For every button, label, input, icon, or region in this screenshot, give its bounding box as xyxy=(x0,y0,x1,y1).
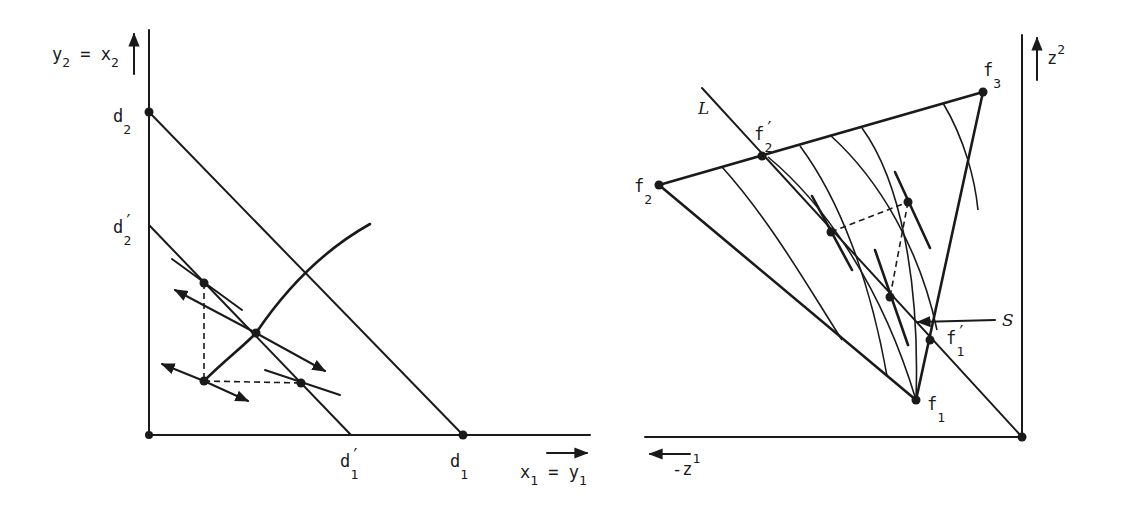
point-lower-right xyxy=(297,379,306,388)
left-panel: y2 = x2 x1 = y1 d2 d′2 d′1 d1 xyxy=(52,30,590,488)
origin-point xyxy=(145,431,153,439)
label-S: S xyxy=(1002,310,1014,330)
curve-6 xyxy=(830,135,937,330)
tangent-stroke-3 xyxy=(895,172,930,248)
z2-axis-label: z2 xyxy=(1047,42,1065,68)
curve-2 xyxy=(800,146,887,376)
point-inner-b xyxy=(904,198,913,207)
tangent-arrow-lower-right xyxy=(204,381,248,401)
point-f1 xyxy=(912,396,921,405)
label-d2-prime: d′2 xyxy=(113,211,134,248)
label-d1: d1 xyxy=(450,451,468,482)
point-equilibrium xyxy=(252,329,261,338)
right-panel: z2 -z1 L S f2 xyxy=(634,35,1065,479)
point-f1-prime xyxy=(926,336,935,345)
label-d1-prime: d′1 xyxy=(340,445,361,482)
y-axis-label: y2 = x2 xyxy=(52,44,119,70)
economics-diagram: y2 = x2 x1 = y1 d2 d′2 d′1 d1 xyxy=(0,0,1122,511)
z1-axis-label: -z1 xyxy=(672,451,700,479)
edge-f1-f3 xyxy=(916,92,983,400)
point-upper xyxy=(200,279,209,288)
point-f3 xyxy=(979,88,988,97)
edge-f2-f1 xyxy=(659,185,916,400)
point-f2 xyxy=(655,181,664,190)
label-f1-prime: f′1 xyxy=(946,322,967,359)
tangent-arrow-mid-right xyxy=(256,333,325,371)
label-d2: d2 xyxy=(113,106,131,137)
dashed-horizontal xyxy=(204,381,301,383)
contract-curve xyxy=(204,224,370,381)
x-axis-label: x1 = y1 xyxy=(520,462,587,488)
label-f3: f3 xyxy=(983,60,1001,91)
dashed-line-1 xyxy=(831,202,908,232)
point-inner-a xyxy=(827,228,836,237)
label-f1: f1 xyxy=(927,394,945,425)
point-lower-left xyxy=(200,377,209,386)
label-L: L xyxy=(697,98,709,118)
point-d2 xyxy=(145,108,154,117)
label-f2: f2 xyxy=(634,176,652,207)
point-inner-c xyxy=(886,293,895,302)
point-d1 xyxy=(459,431,468,440)
curve-3 xyxy=(862,128,917,400)
tangent-arrow-lower-left xyxy=(162,364,204,381)
tangent-arrow-mid-left xyxy=(175,290,256,333)
